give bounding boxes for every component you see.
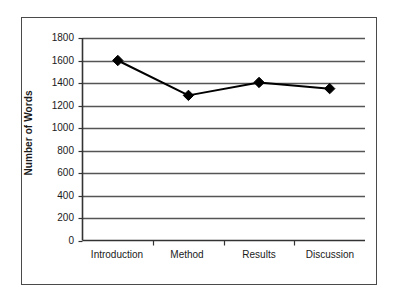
data-point-marker [254,77,264,87]
plot-area [0,0,397,303]
data-point-marker [113,55,123,65]
data-point-marker [183,90,193,100]
gridlines [83,39,366,219]
chart-figure: Number of Words 1800 1600 1400 1200 1000… [0,0,397,303]
data-line-series [118,61,330,96]
data-point-marker [324,83,334,93]
